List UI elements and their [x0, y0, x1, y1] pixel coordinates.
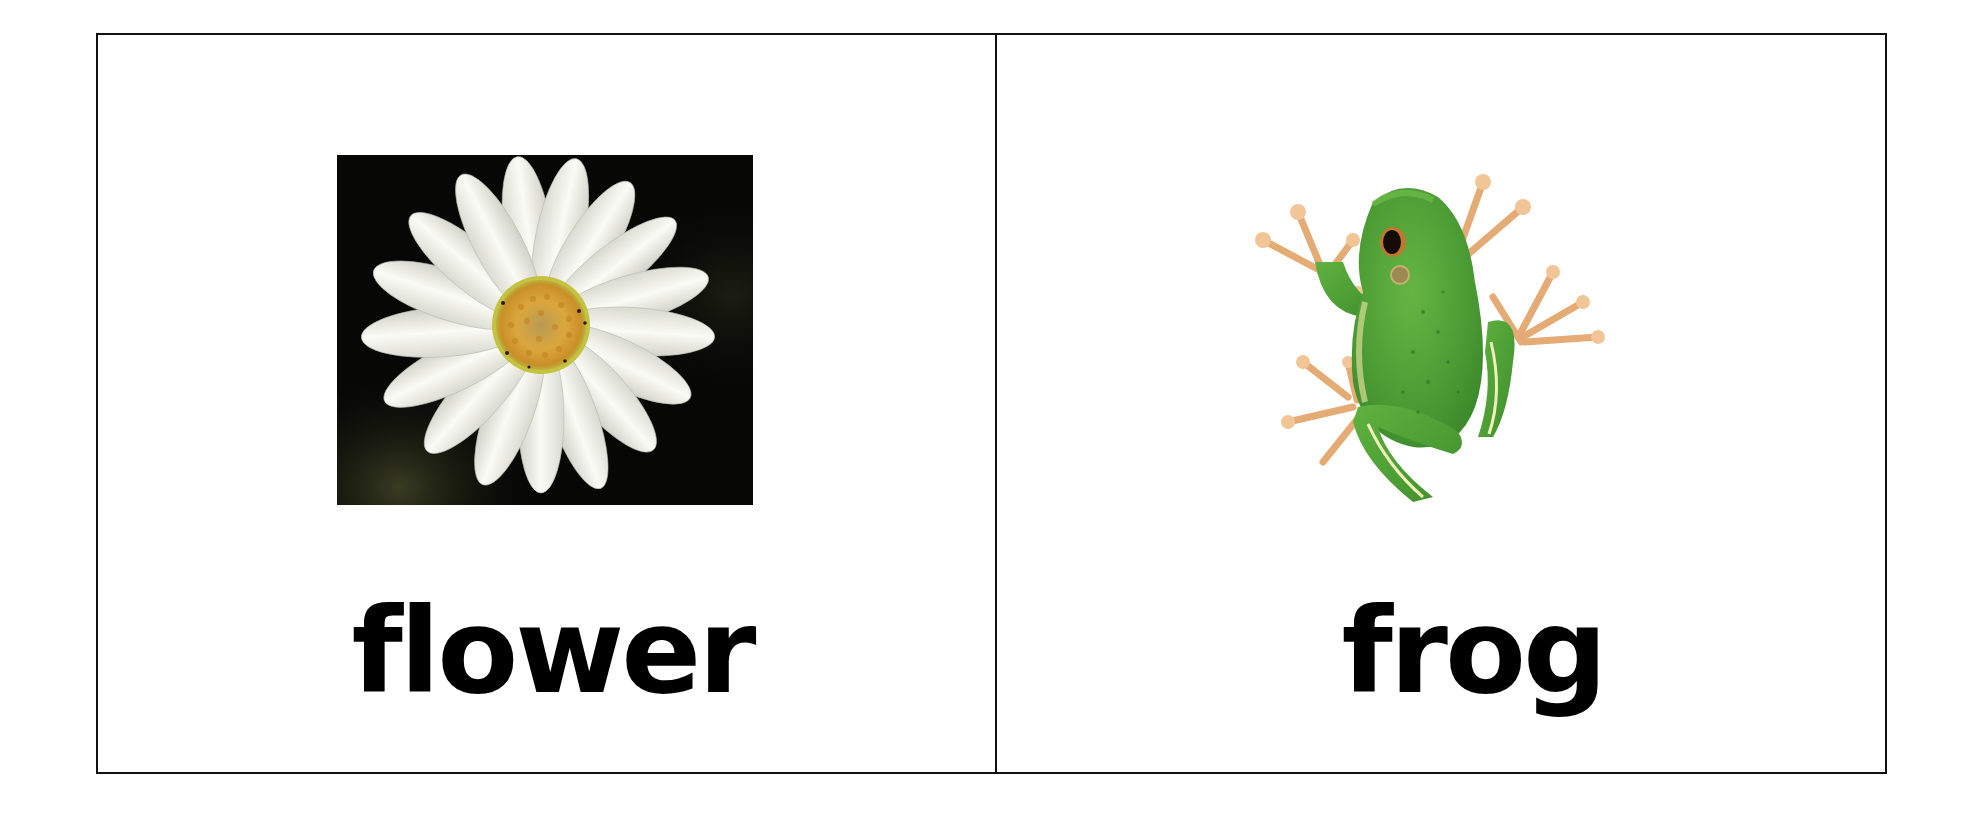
- frog-photo-icon: [1253, 162, 1615, 502]
- flashcard-frog: frog: [997, 35, 1887, 772]
- daisy-photo-icon: [337, 155, 753, 505]
- flashcard-flower: flower: [98, 35, 995, 772]
- flashcard-sheet: flower: [96, 33, 1887, 774]
- word-label-frog: frog: [997, 592, 1887, 710]
- word-label-flower: flower: [98, 592, 995, 710]
